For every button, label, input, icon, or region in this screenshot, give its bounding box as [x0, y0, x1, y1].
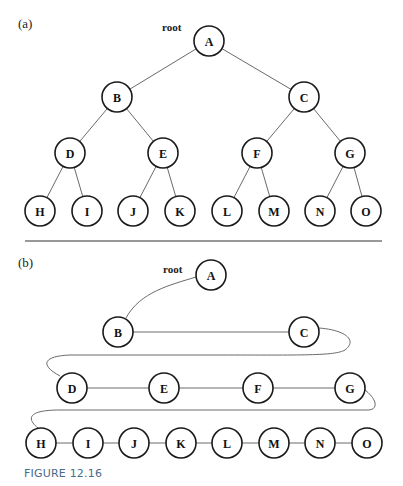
node-label: I	[86, 437, 91, 451]
node-label: E	[160, 382, 168, 396]
panel-a-node-f: F	[242, 138, 272, 168]
panel-a-node-l: L	[212, 196, 242, 226]
panel-b-nodes: ABCDEFGHIJKLMNO	[26, 260, 382, 458]
panel-b-node-f: F	[243, 373, 273, 403]
panel-b-node-c: C	[289, 317, 319, 347]
node-label: G	[345, 382, 354, 396]
tree-figure: (a) root ABCDEFGHIJKLMNO (b) root ABCDEF…	[0, 0, 403, 486]
panel-b-node-g: G	[335, 373, 365, 403]
panel-a-node-n: N	[305, 196, 335, 226]
panel-b-node-j: J	[119, 428, 149, 458]
panel-a-node-g: G	[335, 138, 365, 168]
panel-a-node-h: H	[25, 196, 55, 226]
panel-b-node-d: D	[57, 373, 87, 403]
node-label: L	[223, 437, 231, 451]
panel-b-node-k: K	[166, 428, 196, 458]
panel-a-node-o: O	[351, 196, 381, 226]
panel-a-node-d: D	[55, 138, 85, 168]
panel-b-edges	[31, 277, 375, 443]
panel-b-node-e: E	[149, 373, 179, 403]
node-label: C	[300, 326, 309, 340]
figure-caption: FIGURE 12.16	[24, 467, 102, 480]
node-label: B	[114, 326, 122, 340]
node-label: I	[85, 205, 90, 219]
panel-a-node-i: I	[72, 196, 102, 226]
node-label: D	[68, 382, 77, 396]
panel-b-node-a: A	[196, 260, 226, 290]
panel-a-root-label: root	[162, 21, 182, 33]
panel-b-linked-sequence: (b) root ABCDEFGHIJKLMNO	[18, 255, 382, 458]
node-label: K	[176, 437, 186, 451]
panel-a-node-m: M	[259, 196, 289, 226]
panel-b-node-m: M	[259, 428, 289, 458]
panel-b-node-l: L	[212, 428, 242, 458]
panel-a-complete-binary-tree: (a) root ABCDEFGHIJKLMNO	[18, 16, 381, 226]
panel-a-node-e: E	[148, 138, 178, 168]
panel-a-node-j: J	[118, 196, 148, 226]
node-label: F	[253, 147, 260, 161]
panel-a-node-b: B	[102, 82, 132, 112]
node-label: G	[345, 147, 354, 161]
node-label: N	[316, 205, 325, 219]
edge-a-c	[209, 41, 304, 97]
panel-b-node-h: H	[26, 428, 56, 458]
node-label: B	[113, 91, 121, 105]
edge-a-b	[117, 41, 209, 97]
node-label: E	[159, 147, 167, 161]
panel-b-node-n: N	[305, 428, 335, 458]
node-label: C	[300, 91, 309, 105]
node-label: H	[36, 437, 46, 451]
node-label: A	[207, 269, 216, 283]
node-label: O	[361, 205, 370, 219]
node-label: L	[223, 205, 231, 219]
node-label: J	[130, 205, 136, 219]
panel-a-node-a: A	[194, 26, 224, 56]
panel-b-node-b: B	[103, 317, 133, 347]
panel-b-node-o: O	[352, 428, 382, 458]
node-label: H	[35, 205, 45, 219]
panel-b-root-label: root	[163, 263, 183, 275]
node-label: M	[268, 437, 279, 451]
panel-a-label: (a)	[18, 16, 32, 31]
panel-a-edges	[40, 41, 366, 211]
node-label: M	[268, 205, 279, 219]
node-label: A	[205, 35, 214, 49]
node-label: K	[175, 205, 185, 219]
panel-b-node-i: I	[73, 428, 103, 458]
node-label: F	[254, 382, 261, 396]
panel-a-node-c: C	[289, 82, 319, 112]
node-label: O	[362, 437, 371, 451]
node-label: N	[316, 437, 325, 451]
node-label: J	[131, 437, 137, 451]
edge-a-b	[126, 277, 196, 318]
panel-a-node-k: K	[165, 196, 195, 226]
node-label: D	[66, 147, 75, 161]
panel-b-label: (b)	[18, 255, 33, 270]
